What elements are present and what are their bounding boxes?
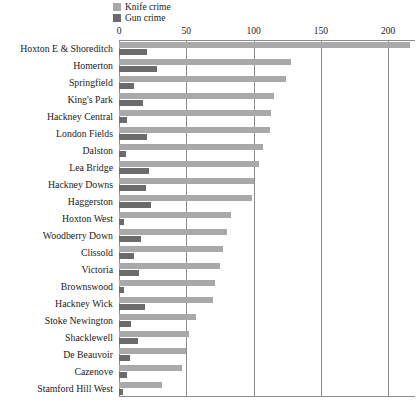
category-label: Hackney Central — [47, 111, 113, 122]
bar-gun-crime — [119, 372, 127, 379]
gridline-150 — [321, 40, 322, 397]
bar-knife-crime — [119, 331, 189, 338]
category-label: Lea Bridge — [69, 162, 113, 173]
category-label: Springfield — [69, 77, 113, 88]
bar-gun-crime — [119, 355, 130, 362]
x-tick-label-100: 100 — [246, 26, 260, 37]
bar-gun-crime — [119, 49, 147, 56]
bar-gun-crime — [119, 304, 145, 311]
bar-knife-crime — [119, 212, 231, 219]
bar-gun-crime — [119, 236, 141, 243]
bar-knife-crime — [119, 144, 263, 151]
bar-gun-crime — [119, 185, 146, 192]
bar-gun-crime — [119, 270, 139, 277]
legend-swatch-gun-crime — [113, 14, 121, 22]
bar-knife-crime — [119, 195, 252, 202]
category-label: Brownswood — [61, 281, 113, 292]
legend-label-knife-crime: Knife crime — [125, 2, 171, 12]
category-label: Haggerston — [68, 196, 113, 207]
x-tick-label-0: 0 — [117, 26, 122, 37]
bar-gun-crime — [119, 66, 157, 73]
bar-gun-crime — [119, 202, 151, 209]
bar-knife-crime — [119, 161, 259, 168]
category-label: Woodberry Down — [43, 230, 113, 241]
bar-knife-crime — [119, 93, 274, 100]
legend-swatch-knife-crime — [113, 3, 121, 11]
bar-gun-crime — [119, 287, 124, 294]
category-label: Stoke Newington — [45, 315, 113, 326]
bar-gun-crime — [119, 389, 123, 396]
chart-legend: Knife crime Gun crime — [113, 2, 171, 23]
bar-knife-crime — [119, 348, 186, 355]
bar-knife-crime — [119, 297, 213, 304]
x-axis-tick-labels: 050100150200 — [0, 26, 416, 38]
bar-knife-crime — [119, 127, 270, 134]
category-label: Dalston — [83, 145, 113, 156]
bar-gun-crime — [119, 338, 138, 345]
bar-gun-crime — [119, 321, 131, 328]
bar-knife-crime — [119, 314, 196, 321]
bar-knife-crime — [119, 178, 254, 185]
bar-knife-crime — [119, 110, 271, 117]
category-label: King's Park — [67, 94, 113, 105]
bar-gun-crime — [119, 117, 127, 124]
bar-gun-crime — [119, 168, 149, 175]
category-label: Victoria — [81, 264, 113, 275]
category-label: Stamford Hill West — [37, 383, 113, 394]
plot-area — [119, 40, 415, 397]
bar-gun-crime — [119, 253, 134, 260]
bar-gun-crime — [119, 100, 143, 107]
bar-knife-crime — [119, 246, 223, 253]
y-axis-category-labels: Hoxton E & ShoreditchHomertonSpringfield… — [0, 40, 116, 397]
bar-gun-crime — [119, 151, 126, 158]
legend-label-gun-crime: Gun crime — [125, 13, 165, 23]
x-tick-label-150: 150 — [314, 26, 328, 37]
category-label: London Fields — [56, 128, 113, 139]
bar-knife-crime — [119, 365, 182, 372]
bar-knife-crime — [119, 229, 227, 236]
category-label: Hoxton E & Shoreditch — [20, 43, 113, 54]
x-tick-label-200: 200 — [381, 26, 395, 37]
bar-knife-crime — [119, 263, 220, 270]
category-label: Hackney Downs — [48, 179, 113, 190]
bar-knife-crime — [119, 59, 291, 66]
category-label: Shacklewell — [65, 332, 113, 343]
bar-knife-crime — [119, 382, 162, 389]
bar-knife-crime — [119, 280, 215, 287]
category-label: Homerton — [73, 60, 113, 71]
legend-item-knife-crime: Knife crime — [113, 2, 171, 12]
category-label: Cazenove — [74, 366, 113, 377]
bar-gun-crime — [119, 134, 147, 141]
category-label: Hoxton West — [62, 213, 113, 224]
x-tick-label-50: 50 — [182, 26, 192, 37]
category-label: Hackney Wick — [55, 298, 113, 309]
category-label: Clissold — [81, 247, 113, 258]
legend-item-gun-crime: Gun crime — [113, 13, 171, 23]
bar-gun-crime — [119, 219, 124, 226]
bar-gun-crime — [119, 83, 134, 90]
bar-chart: Knife crime Gun crime 050100150200 Hoxto… — [0, 0, 416, 406]
bar-knife-crime — [119, 42, 410, 49]
bar-knife-crime — [119, 76, 286, 83]
gridline-200 — [388, 40, 389, 397]
category-label: De Beauvoir — [63, 349, 113, 360]
